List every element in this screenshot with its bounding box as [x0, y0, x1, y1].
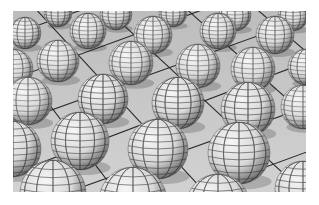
sphere — [37, 40, 80, 86]
sphere — [70, 13, 107, 52]
rendered-scene — [13, 11, 306, 192]
sphere — [44, 11, 73, 29]
spheres-on-grid-image — [13, 11, 306, 192]
